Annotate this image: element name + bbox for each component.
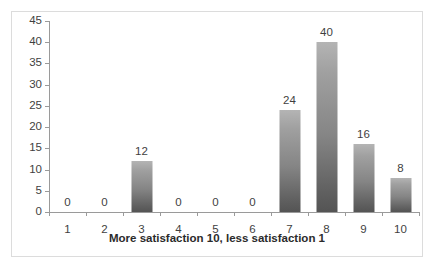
y-axis-tick-label: 45: [29, 15, 42, 27]
y-axis-tick-label: 15: [29, 143, 42, 155]
bar-value-label: 24: [283, 95, 296, 107]
bar-value-label: 12: [135, 146, 148, 158]
y-axis-tick-label: 35: [29, 58, 42, 70]
bar[interactable]: [316, 42, 337, 212]
bar[interactable]: [353, 144, 374, 212]
y-axis-tick-label: 20: [29, 121, 42, 133]
x-tick-mark: [197, 212, 198, 216]
bar[interactable]: [279, 110, 300, 212]
bar-slot: 40: [308, 21, 345, 212]
bar-slot: 0: [234, 21, 271, 212]
bar-slot: 12: [123, 21, 160, 212]
y-axis-tick-label: 0: [36, 206, 42, 218]
x-tick-mark: [160, 212, 161, 216]
bar-slot: 16: [345, 21, 382, 212]
bar-value-label: 40: [320, 27, 333, 39]
x-tick-mark: [86, 212, 87, 216]
x-tick-mark: [234, 212, 235, 216]
bar-value-label: 0: [175, 197, 181, 209]
x-tick-mark: [49, 212, 50, 216]
bar[interactable]: [390, 178, 411, 212]
y-axis-tick-label: 25: [29, 100, 42, 112]
x-tick-mark: [271, 212, 272, 216]
bar-value-label: 0: [101, 197, 107, 209]
bar-value-label: 0: [212, 197, 218, 209]
bar-value-label: 8: [397, 163, 403, 175]
bar-slot: 0: [49, 21, 86, 212]
bar[interactable]: [131, 161, 152, 212]
bar-value-label: 0: [249, 197, 255, 209]
bar-slot: 0: [86, 21, 123, 212]
x-tick-mark: [382, 212, 383, 216]
chart-frame: 051015202530354045 00120002440168 123456…: [11, 11, 423, 257]
y-axis-tick-label: 5: [36, 185, 42, 197]
bar-value-label: 16: [357, 129, 370, 141]
bar-slot: 0: [160, 21, 197, 212]
bar-slot: 8: [382, 21, 419, 212]
bar-slot: 24: [271, 21, 308, 212]
x-tick-mark: [308, 212, 309, 216]
y-axis-tick-label: 30: [29, 79, 42, 91]
bar-slot: 0: [197, 21, 234, 212]
plot-area: 051015202530354045 00120002440168 123456…: [49, 21, 419, 213]
y-axis-tick-label: 10: [29, 164, 42, 176]
y-axis-tick-label: 40: [29, 36, 42, 48]
x-axis-title: More satisfaction 10, less satisfaction …: [12, 233, 422, 245]
x-tick-mark: [345, 212, 346, 216]
bar-value-label: 0: [64, 197, 70, 209]
x-tick-mark: [419, 212, 420, 216]
x-tick-mark: [123, 212, 124, 216]
